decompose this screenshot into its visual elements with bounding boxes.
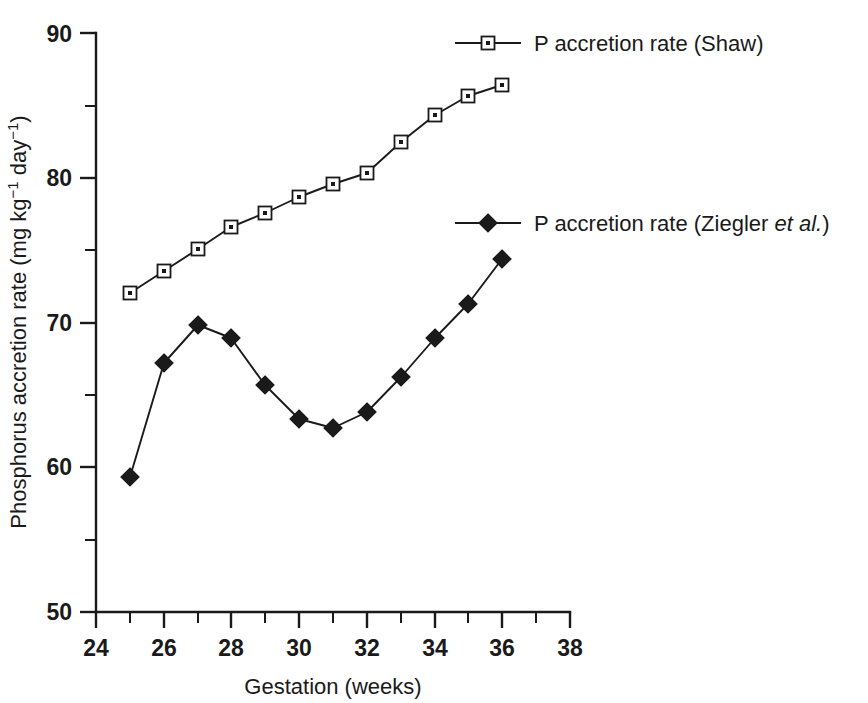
legend-ziegler-italic: et al. — [774, 211, 822, 236]
x-tick-label-30: 30 — [286, 635, 312, 661]
y-tick-label-60: 60 — [46, 454, 72, 480]
y-tick-label-70: 70 — [46, 310, 72, 336]
y-tick-label-80: 80 — [46, 165, 72, 191]
data-point — [121, 468, 139, 486]
y-axis-title-sup1: −1 — [4, 181, 21, 198]
chart-figure: 50 60 70 80 90 24 — [0, 0, 868, 703]
legend-ziegler-suffix: ) — [822, 211, 829, 236]
y-tick-label-50: 50 — [46, 599, 72, 625]
x-tick-label-36: 36 — [489, 635, 515, 661]
legend-shaw-label: P accretion rate (Shaw) — [534, 31, 763, 56]
legend-entry-shaw[interactable]: P accretion rate (Shaw) — [455, 31, 763, 56]
legend-ziegler-label: P accretion rate (Ziegler et al.) — [534, 211, 830, 236]
series-shaw — [124, 79, 509, 300]
legend-ziegler-prefix: P accretion rate (Ziegler — [534, 211, 774, 236]
x-tick-label-32: 32 — [354, 635, 380, 661]
y-axis-title-sup2: −1 — [4, 123, 21, 140]
data-point — [192, 243, 205, 256]
legend-entry-ziegler[interactable]: P accretion rate (Ziegler et al.) — [455, 211, 830, 236]
data-point — [429, 109, 442, 122]
axis-lines — [96, 33, 570, 612]
x-axis-tick-labels: 24 26 28 30 32 34 36 38 — [83, 635, 583, 661]
data-point — [493, 250, 511, 268]
x-tick-label-38: 38 — [557, 635, 583, 661]
data-point — [293, 191, 306, 204]
data-point — [222, 329, 240, 347]
data-point — [158, 265, 171, 278]
data-point — [361, 167, 374, 180]
data-point — [225, 221, 238, 234]
x-tick-label-26: 26 — [151, 635, 177, 661]
legend-shaw-marker-icon — [482, 37, 495, 50]
data-point — [395, 136, 408, 149]
x-axis-title: Gestation (weeks) — [244, 674, 421, 699]
series-shaw-line — [130, 85, 502, 293]
y-axis-title-lead: Phosphorus accretion rate (mg kg — [6, 198, 31, 528]
x-tick-label-34: 34 — [422, 635, 448, 661]
series-ziegler-line — [130, 259, 502, 477]
x-axis-minor-ticks — [130, 612, 536, 623]
series-ziegler-markers — [121, 250, 511, 486]
series-shaw-markers — [124, 79, 509, 300]
data-point — [259, 207, 272, 220]
x-tick-label-24: 24 — [83, 635, 109, 661]
y-axis-title: Phosphorus accretion rate (mg kg−1 day−1… — [4, 115, 31, 528]
data-point — [496, 79, 509, 92]
y-axis-major-ticks — [80, 33, 96, 612]
x-tick-label-28: 28 — [218, 635, 244, 661]
data-point — [462, 90, 475, 103]
legend-ziegler-marker-icon — [479, 214, 497, 232]
data-point — [327, 178, 340, 191]
data-point — [124, 287, 137, 300]
y-tick-label-90: 90 — [46, 21, 72, 47]
y-axis-tick-labels: 50 60 70 80 90 — [46, 21, 72, 625]
data-point — [324, 419, 342, 437]
series-ziegler — [121, 250, 511, 486]
y-axis-title-mid: day — [6, 140, 31, 182]
y-axis-title-tail: ) — [6, 115, 31, 122]
line-chart-canvas: 50 60 70 80 90 24 — [0, 0, 868, 703]
